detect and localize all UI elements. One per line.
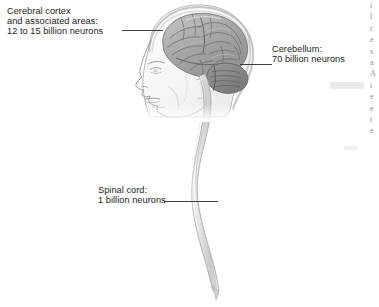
cut-off-text-column: ilresaAteete <box>369 0 379 307</box>
label-cortex-line2: and associated areas: <box>7 16 103 26</box>
label-cerebral-cortex: Cerebral cortex and associated areas: 12… <box>7 6 103 37</box>
label-spinal-cord: Spinal cord: 1 billion neurons <box>98 185 166 205</box>
label-cerebellum: Cerebellum: 70 billion neurons <box>272 44 345 64</box>
label-spinal-line2: 1 billion neurons <box>98 195 166 205</box>
label-cortex-line3: 12 to 15 billion neurons <box>7 26 103 36</box>
cut-off-text-line: t <box>369 80 379 91</box>
cut-off-text-line: A <box>369 68 379 79</box>
cut-off-text-line: i <box>369 0 379 11</box>
cut-off-text-line: a <box>369 57 379 68</box>
page-smudge <box>330 82 364 89</box>
label-cerebellum-line1: Cerebellum: <box>272 44 345 54</box>
label-spinal-line1: Spinal cord: <box>98 185 166 195</box>
cut-off-text-line: e <box>369 34 379 45</box>
label-cerebellum-line2: 70 billion neurons <box>272 54 345 64</box>
cut-off-text-line: e <box>369 91 379 102</box>
cut-off-text-line: e <box>369 125 379 136</box>
figure-canvas: Cerebral cortex and associated areas: 12… <box>0 0 379 307</box>
cut-off-text-line: e <box>369 103 379 114</box>
page-smudge-secondary <box>344 146 358 150</box>
label-cortex-line1: Cerebral cortex <box>7 6 103 16</box>
cut-off-text-line: r <box>369 23 379 34</box>
cut-off-text-line: s <box>369 46 379 57</box>
cut-off-text-line: l <box>369 11 379 22</box>
cerebellum-icon <box>207 63 248 93</box>
cut-off-text-line: t <box>369 114 379 125</box>
